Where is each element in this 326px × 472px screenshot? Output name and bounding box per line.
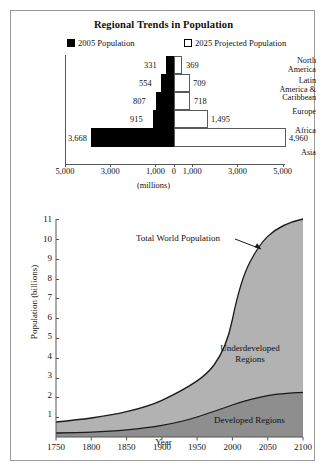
bar-value-2005-asia: 3,668 bbox=[68, 134, 87, 143]
bar-row-label-europe: Europe bbox=[258, 108, 316, 117]
bar-chart-x-axis bbox=[65, 164, 285, 165]
bar-value-2025-latin-america: 709 bbox=[193, 79, 206, 88]
bar-xtick-label-2: 1,000 bbox=[146, 167, 165, 176]
bar-xtick-label-3: 0 bbox=[172, 167, 176, 176]
bar-chart-y-axis bbox=[65, 55, 66, 164]
figure-frame: Regional Trends in Population 2005 Popul… bbox=[10, 10, 315, 461]
bar-row-label-asia: Asia bbox=[258, 149, 316, 158]
area-chart-xlabel: Year bbox=[11, 437, 316, 447]
bar-value-2005-europe: 807 bbox=[133, 97, 146, 106]
bar-value-2025-north-america: 369 bbox=[186, 61, 199, 70]
bar-value-2005-latin-america: 554 bbox=[139, 79, 152, 88]
area-chart-panel: Population (billions) 11 10 9 8 7 6 5 4 … bbox=[11, 197, 316, 462]
bar-chart-title: Regional Trends in Population bbox=[11, 19, 316, 30]
bar-xtick-label-4: 1,000 bbox=[183, 167, 202, 176]
bar-chart-units-label: (millions) bbox=[11, 181, 296, 190]
bar-2025-north-america bbox=[174, 56, 182, 74]
bar-value-2005-north-america: 331 bbox=[144, 61, 157, 70]
legend-swatch-filled-icon bbox=[67, 39, 75, 47]
legend-label-2025: 2025 Projected Population bbox=[195, 38, 286, 48]
bar-chart-panel: Regional Trends in Population 2005 Popul… bbox=[11, 11, 316, 196]
bar-2005-asia bbox=[91, 128, 174, 147]
annotation-underdeveloped-regions: Underdeveloped Regions bbox=[207, 343, 293, 365]
bar-2005-europe bbox=[156, 92, 174, 110]
bar-2005-north-america bbox=[166, 56, 174, 74]
bar-xtick-label-6: 5,000 bbox=[273, 167, 292, 176]
legend-item-2025: 2025 Projected Population bbox=[184, 38, 286, 48]
bar-chart-plot: North America Latin America & Caribbean … bbox=[11, 55, 316, 175]
legend-label-2005: 2005 Population bbox=[78, 38, 135, 48]
bar-2005-africa bbox=[153, 110, 174, 128]
bar-2025-asia bbox=[174, 128, 286, 147]
bar-value-2025-asia: 4,960 bbox=[289, 134, 308, 143]
bar-2025-africa bbox=[174, 110, 208, 128]
legend-item-2005: 2005 Population bbox=[67, 38, 135, 48]
bar-2005-latin-america bbox=[161, 74, 174, 92]
bar-row-label-north-america: North America bbox=[258, 57, 316, 74]
bar-value-2025-africa: 1,495 bbox=[211, 115, 230, 124]
bar-value-2005-africa: 915 bbox=[130, 115, 143, 124]
bar-chart-xtick-labels: 5,000 3,000 1,000 0 1,000 3,000 5,000 bbox=[11, 167, 316, 179]
bar-xtick-label-1: 3,000 bbox=[101, 167, 120, 176]
bar-value-2025-europe: 718 bbox=[194, 97, 207, 106]
bar-2025-latin-america bbox=[174, 74, 190, 92]
screenshot-root: Regional Trends in Population 2005 Popul… bbox=[0, 0, 326, 472]
bar-row-label-latin-america: Latin America & Caribbean bbox=[258, 77, 316, 103]
annotation-total-world-population: Total World Population bbox=[136, 233, 220, 243]
legend-swatch-open-icon bbox=[184, 39, 192, 47]
bar-chart-legend: 2005 Population 2025 Projected Populatio… bbox=[11, 38, 316, 52]
total-population-arrow-icon bbox=[235, 239, 261, 249]
annotation-developed-regions: Developed Regions bbox=[214, 415, 285, 425]
bar-xtick-label-0: 5,000 bbox=[56, 167, 75, 176]
bar-2025-europe bbox=[174, 92, 190, 110]
bar-xtick-label-5: 3,000 bbox=[228, 167, 247, 176]
